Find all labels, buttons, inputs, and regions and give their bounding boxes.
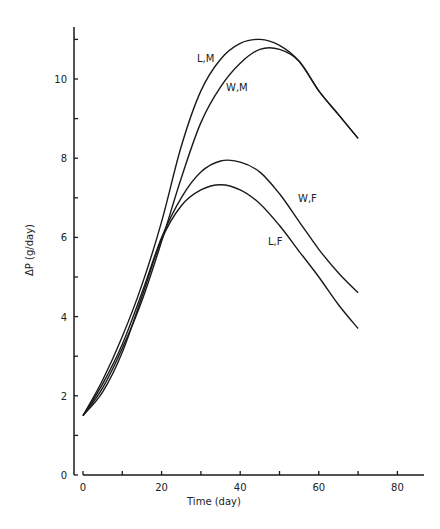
series-label: W,F bbox=[298, 193, 317, 204]
series-lf-curve bbox=[83, 185, 358, 416]
series-label: W,M bbox=[226, 82, 248, 93]
y-tick-label: 10 bbox=[54, 74, 67, 85]
x-tick-label: 60 bbox=[312, 482, 325, 493]
x-tick-label: 20 bbox=[155, 482, 168, 493]
y-tick-label: 6 bbox=[61, 232, 67, 243]
y-tick-label: 2 bbox=[61, 391, 67, 402]
x-axis-label: Time (day) bbox=[186, 496, 241, 507]
y-tick-label: 4 bbox=[61, 312, 67, 323]
x-tick-label: 40 bbox=[234, 482, 247, 493]
series-label: L,F bbox=[268, 236, 283, 247]
series-labels: L,MW,MW,FL,F bbox=[197, 53, 317, 247]
series-label: L,M bbox=[197, 53, 214, 64]
y-tick-label: 8 bbox=[61, 153, 67, 164]
series-lm-curve bbox=[83, 39, 358, 415]
series-wf-curve bbox=[83, 160, 358, 415]
series-wm-curve bbox=[83, 48, 358, 416]
curves bbox=[83, 39, 358, 415]
axes: 0246810020406080 bbox=[54, 27, 424, 493]
x-tick-label: 80 bbox=[391, 482, 404, 493]
line-chart: 0246810020406080 L,MW,MW,FL,F Time (day)… bbox=[0, 0, 440, 529]
y-axis-label: ΔP (g/day) bbox=[24, 224, 35, 276]
x-tick-label: 0 bbox=[80, 482, 86, 493]
y-tick-label: 0 bbox=[61, 470, 67, 481]
